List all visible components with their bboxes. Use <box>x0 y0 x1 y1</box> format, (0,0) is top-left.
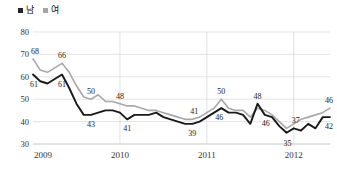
x-tick-label: 2009 <box>34 150 52 160</box>
x-tick-label: 2011 <box>198 150 216 160</box>
y-tick-label: 70 <box>21 49 30 59</box>
chart-svg <box>33 32 330 144</box>
legend-swatch-female <box>43 8 48 13</box>
y-tick-label: 40 <box>21 117 30 127</box>
legend-label-female: 여 <box>51 6 59 15</box>
y-tick-label: 60 <box>21 72 30 82</box>
series-line-female <box>33 59 330 128</box>
plot-area <box>33 32 330 144</box>
series-line-male <box>33 75 330 133</box>
x-tick-label: 2010 <box>111 150 129 160</box>
y-tick-label: 30 <box>21 139 30 149</box>
legend-item-female[interactable]: 여 <box>43 6 59 15</box>
x-tick-label: 2012 <box>285 150 303 160</box>
y-tick-label: 50 <box>21 94 30 104</box>
y-axis: 304050607080 <box>0 0 32 172</box>
vertical-gridlines <box>120 32 294 144</box>
chart-container: 남 여 304050607080 2009201020112012 686661… <box>0 0 337 172</box>
y-tick-label: 80 <box>21 27 30 37</box>
